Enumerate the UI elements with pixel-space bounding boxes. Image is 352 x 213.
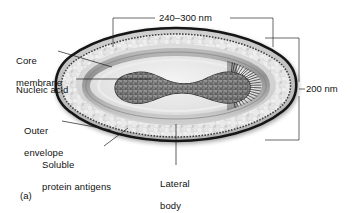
height-dimension-label: 200 nm <box>306 83 338 94</box>
label-outer-envelope-line1: Outer <box>24 125 48 136</box>
leader-core-membrane <box>58 51 112 67</box>
panel-label: (a) <box>20 190 32 201</box>
virus-structure-figure: 240–300 nm 200 nm Core membrane Nucleic … <box>0 0 352 213</box>
label-soluble-protein-antigens: Soluble protein antigens <box>42 148 111 192</box>
label-nucleic-acid-line1: Nucleic acid <box>16 84 68 95</box>
label-nucleic-acid: Nucleic acid <box>16 73 68 95</box>
label-lateral-body-line2: body <box>160 200 181 211</box>
leader-outer-envelope <box>62 121 111 130</box>
leader-soluble-protein-antigens <box>104 128 128 146</box>
label-soluble-protein-antigens-line2: protein antigens <box>42 181 111 192</box>
label-lateral-body-line1: Lateral <box>160 178 190 189</box>
width-dimension-label: 240–300 nm <box>159 12 212 23</box>
label-core-membrane-line1: Core <box>16 55 37 66</box>
label-lateral-body: Lateral body <box>160 167 190 211</box>
label-soluble-protein-antigens-line1: Soluble <box>42 159 74 170</box>
